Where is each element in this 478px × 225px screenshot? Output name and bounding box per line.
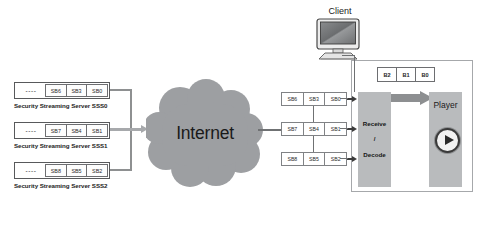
decoder-line: Receive [363, 121, 386, 127]
receive-decode-block: Receive / Decode [358, 92, 391, 187]
server-block-cell: SB0 [86, 84, 108, 97]
received-row: SB6 SB3 SB0 [281, 92, 347, 106]
server-group-sss0: ---- SB6 SB3 SB0 Security Streaming Serv… [14, 82, 110, 109]
server-block-cell: SB5 [66, 164, 88, 177]
row-connector-line [313, 106, 314, 122]
player-label: Player [429, 100, 462, 110]
server-link-line [110, 89, 132, 91]
decoder-input-arrow-head [352, 156, 357, 162]
server-label: Security Streaming Server SSS1 [14, 142, 110, 149]
server-block-cell: SB6 [45, 84, 67, 97]
server-group-sss2: ---- SB8 SB5 SB2 Security Streaming Serv… [14, 162, 110, 189]
cloud-label: Internet [146, 78, 264, 188]
received-row: SB8 SB5 SB2 [281, 152, 347, 166]
buffer-cell: B1 [397, 68, 416, 81]
client-feed-line [342, 55, 355, 56]
received-block-cell: SB4 [304, 123, 326, 135]
row-to-decoder-line [340, 158, 348, 159]
server-block-cell: SB1 [86, 124, 108, 137]
server-group-sss1: ---- SB7 SB4 SB1 Security Streaming Serv… [14, 122, 110, 149]
received-block-cell: SB5 [304, 153, 326, 165]
server-block-cell: SB7 [45, 124, 67, 137]
server-box: ---- SB6 SB3 SB0 [14, 82, 110, 99]
row-connector-line [313, 136, 314, 152]
server-block-cell: SB4 [66, 124, 88, 137]
cloud-inbound-arrow-shaft [110, 128, 142, 131]
server-dots: ---- [16, 84, 46, 97]
server-block-cell: SB3 [66, 84, 88, 97]
buffer-cell: B2 [378, 68, 397, 81]
server-block-cell: SB8 [45, 164, 67, 177]
server-link-line [110, 169, 132, 171]
decoder-input-arrow-head [352, 96, 357, 102]
decoder-line: Decode [363, 152, 385, 158]
desktop-monitor-icon [312, 18, 368, 66]
server-block-cell: SB2 [86, 164, 108, 177]
diagram-canvas: ---- SB6 SB3 SB0 Security Streaming Serv… [0, 0, 478, 225]
server-dots: ---- [16, 164, 46, 177]
client-label: Client [305, 6, 375, 16]
row-to-decoder-line [340, 98, 348, 99]
player-block: Player [429, 92, 462, 187]
row-to-decoder-line [340, 128, 348, 129]
client-feed-line [354, 56, 355, 92]
received-row: SB7 SB4 SB1 [281, 122, 347, 136]
received-block-cell: SB8 [282, 153, 304, 165]
decoder-input-arrow-head [352, 126, 357, 132]
server-label: Security Streaming Server SSS0 [14, 102, 110, 109]
play-button-icon[interactable] [435, 128, 460, 153]
cloud-outbound-line [258, 129, 282, 131]
received-block-cell: SB7 [282, 123, 304, 135]
internet-cloud: Internet [146, 78, 264, 188]
play-triangle-icon [445, 135, 454, 145]
received-block-cell: SB6 [282, 93, 304, 105]
buffer-cell: B0 [416, 68, 434, 81]
server-box: ---- SB7 SB4 SB1 [14, 122, 110, 139]
output-buffer: B2 B1 B0 [377, 67, 435, 82]
server-box: ---- SB8 SB5 SB2 [14, 162, 110, 179]
server-dots: ---- [16, 124, 46, 137]
server-label: Security Streaming Server SSS2 [14, 182, 110, 189]
received-block-cell: SB3 [304, 93, 326, 105]
decode-to-player-arrow [391, 91, 433, 111]
decoder-line: / [374, 136, 376, 142]
